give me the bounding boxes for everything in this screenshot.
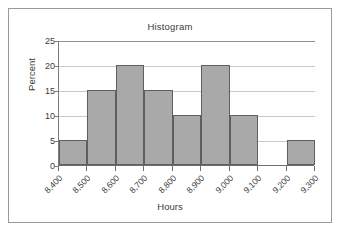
histogram-bar xyxy=(230,115,258,165)
y-tick-mark xyxy=(54,166,58,167)
x-tick-label: 9,200 xyxy=(270,173,292,195)
y-tick-mark xyxy=(54,41,58,42)
histogram-bar xyxy=(59,140,87,165)
histogram-bar xyxy=(287,140,315,165)
x-tick-label: 8,400 xyxy=(42,173,64,195)
x-tick-mark xyxy=(286,166,287,171)
x-tick-mark xyxy=(229,166,230,171)
chart-title: Histogram xyxy=(9,21,331,32)
x-tick-label: 8,600 xyxy=(99,173,121,195)
x-tick-mark xyxy=(143,166,144,171)
y-tick-label: 20 xyxy=(33,61,55,71)
y-tick-label: 10 xyxy=(33,111,55,121)
x-tick-label: 9,100 xyxy=(241,173,263,195)
x-tick-label: 9,300 xyxy=(298,173,320,195)
histogram-bar xyxy=(116,65,144,165)
x-tick-label: 8,700 xyxy=(128,173,150,195)
x-tick-label: 8,500 xyxy=(71,173,93,195)
x-tick-mark xyxy=(115,166,116,171)
x-tick-label: 9,000 xyxy=(213,173,235,195)
y-tick-mark xyxy=(54,91,58,92)
y-tick-mark xyxy=(54,116,58,117)
y-tick-label: 15 xyxy=(33,86,55,96)
x-tick-label: 8,900 xyxy=(184,173,206,195)
x-tick-label: 8,800 xyxy=(156,173,178,195)
y-axis-tick-labels: 0510152025 xyxy=(29,41,55,166)
chart-figure-frame: Histogram Percent 0510152025 8,4008,5008… xyxy=(8,8,332,223)
histogram-bar xyxy=(144,90,172,165)
y-tick-label: 0 xyxy=(33,161,55,171)
x-tick-mark xyxy=(314,166,315,171)
x-tick-mark xyxy=(257,166,258,171)
y-tick-mark xyxy=(54,66,58,67)
y-tick-label: 25 xyxy=(33,36,55,46)
x-tick-mark xyxy=(172,166,173,171)
histogram-bars xyxy=(59,40,315,165)
histogram-bar xyxy=(87,90,115,165)
y-tick-mark xyxy=(54,141,58,142)
plot-area xyxy=(58,41,314,166)
x-axis-label: Hours xyxy=(9,201,331,212)
histogram-bar xyxy=(173,115,201,165)
x-tick-mark xyxy=(200,166,201,171)
y-tick-label: 5 xyxy=(33,136,55,146)
histogram-bar xyxy=(201,65,229,165)
x-tick-mark xyxy=(58,166,59,171)
x-tick-mark xyxy=(86,166,87,171)
